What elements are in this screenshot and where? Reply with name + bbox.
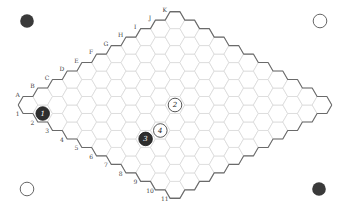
corner-marker-bottom-right-black — [312, 182, 326, 196]
row-label: 6 — [89, 153, 93, 160]
svg-text:1: 1 — [40, 110, 44, 118]
row-label: 8 — [119, 170, 123, 177]
corner-marker-top-left-black — [20, 14, 34, 28]
row-label: 2 — [30, 119, 34, 126]
white-stone-D7: 4 — [154, 124, 168, 138]
black-stone-A2: 1 — [36, 107, 50, 121]
column-label: E — [74, 57, 78, 64]
row-label: 9 — [133, 178, 137, 185]
column-label: F — [89, 48, 93, 55]
column-label: K — [162, 6, 167, 13]
row-label: 3 — [45, 127, 49, 134]
svg-text:4: 4 — [157, 127, 162, 135]
svg-text:2: 2 — [172, 101, 178, 109]
corner-marker-bottom-left-white — [20, 182, 34, 196]
column-label: C — [45, 74, 50, 81]
row-label: 1 — [16, 110, 20, 117]
column-label: D — [59, 65, 64, 72]
white-stone-F6: 2 — [168, 98, 182, 112]
hex-board: ABCDEFGHIJK1234567891011 1234 — [0, 0, 343, 210]
row-label: 7 — [104, 161, 108, 168]
column-label: B — [30, 82, 35, 89]
svg-text:3: 3 — [143, 135, 148, 143]
column-label: I — [134, 23, 137, 30]
column-label: G — [104, 40, 109, 47]
row-label: 11 — [161, 195, 169, 202]
column-label: J — [148, 14, 152, 22]
column-label: H — [118, 31, 123, 38]
black-stone-C7: 3 — [139, 132, 153, 146]
column-label: A — [15, 91, 21, 98]
row-label: 4 — [60, 136, 64, 143]
row-label: 10 — [146, 187, 154, 194]
row-label: 5 — [75, 144, 79, 151]
corner-marker-top-right-white — [313, 14, 327, 28]
